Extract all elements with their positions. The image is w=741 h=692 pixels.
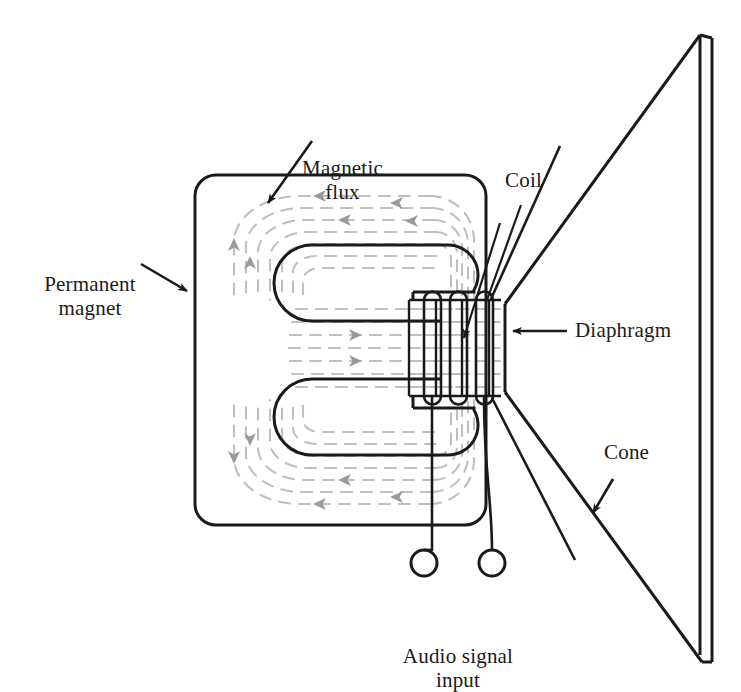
label-permanent-magnet: Permanent magnet	[10, 222, 170, 371]
label-magnetic-flux: Magnetic flux	[265, 106, 420, 255]
flux-lines-lower	[234, 400, 436, 504]
flux-lines-upper-return	[430, 196, 474, 300]
cone-body	[505, 35, 712, 662]
terminal-left	[411, 550, 437, 576]
audio-input-terminals	[411, 550, 505, 576]
flux-lines-lower-return	[430, 400, 474, 504]
coil-lead-wires	[432, 396, 492, 550]
label-audio-signal-input: Audio signal input	[368, 594, 548, 692]
leader-cone	[593, 479, 613, 513]
label-cone: Cone	[604, 440, 649, 465]
terminal-right	[479, 550, 505, 576]
magnet-lower-slot	[274, 379, 447, 455]
label-coil: Coil	[505, 168, 542, 193]
label-diaphragm: Diaphragm	[575, 318, 671, 343]
loudspeaker-diagram: Permanent magnet Magnetic flux Coil Diap…	[0, 0, 741, 692]
